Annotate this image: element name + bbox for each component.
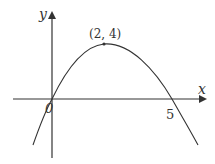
origin-label: 0 [45, 101, 53, 116]
root-label: 5 [166, 107, 174, 122]
vertex-label: (2, 4) [89, 27, 121, 41]
curve [33, 44, 198, 145]
x-axis-label: x [198, 81, 206, 97]
vertex-point [102, 42, 105, 45]
function-graph: y x 0 (2, 4) 5 [0, 0, 215, 164]
y-axis-label: y [38, 6, 48, 22]
